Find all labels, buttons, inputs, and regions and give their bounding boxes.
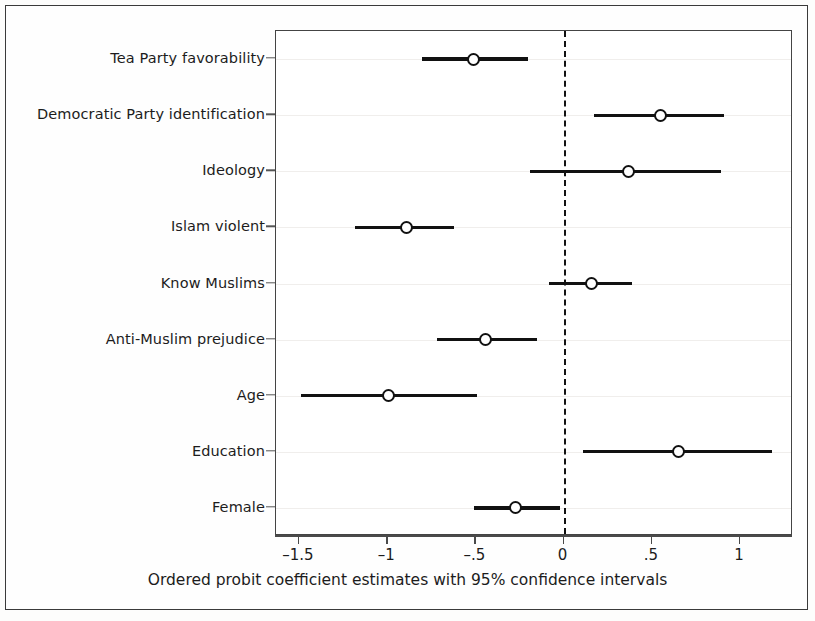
x-axis-tick-label: .5 [644, 546, 658, 564]
x-axis-tick-label: 1 [734, 546, 744, 564]
y-axis-label: Democratic Party identification [37, 106, 275, 122]
x-axis-tick [651, 535, 652, 544]
y-axis-tick [266, 394, 275, 395]
y-axis-labels: Tea Party favorabilityDemocratic Party i… [0, 30, 275, 535]
y-axis-label: Islam violent [171, 218, 275, 234]
y-axis-tick [266, 226, 275, 227]
x-axis-line [275, 535, 792, 537]
x-axis-tick-label: 0 [558, 546, 568, 564]
plot-area: N = 517 Pseudo R2 = 0.19 Log likelihood2… [275, 30, 792, 535]
estimate-marker [467, 53, 480, 66]
y-axis-tick [266, 170, 275, 171]
gridline [276, 284, 791, 285]
estimate-marker [585, 277, 598, 290]
y-axis-tick [266, 450, 275, 451]
y-axis-label: Anti-Muslim prejudice [106, 331, 275, 347]
y-axis-tick [266, 338, 275, 339]
estimate-marker [509, 501, 522, 514]
y-axis-tick [266, 113, 275, 114]
estimate-marker [479, 333, 492, 346]
y-axis-tick [266, 57, 275, 58]
gridline [276, 227, 791, 228]
y-axis-label: Ideology [202, 162, 275, 178]
x-axis-tick [386, 535, 387, 544]
y-axis-label: Know Muslims [161, 275, 275, 291]
x-axis-tick [563, 535, 564, 544]
x-axis-tick-label: –.5 [463, 546, 485, 564]
y-axis-tick [266, 506, 275, 507]
figure-container: Tea Party favorabilityDemocratic Party i… [0, 0, 815, 621]
estimate-marker [382, 389, 395, 402]
x-axis-tick [298, 535, 299, 544]
estimate-marker [672, 445, 685, 458]
y-axis-label: Education [192, 443, 275, 459]
y-axis-tick [266, 282, 275, 283]
estimate-marker [400, 221, 413, 234]
x-axis-tick [739, 535, 740, 544]
estimate-marker [622, 165, 635, 178]
x-axis-tick [474, 535, 475, 544]
y-axis-label: Tea Party favorability [110, 50, 275, 66]
x-axis-tick-label: –1.5 [282, 546, 313, 564]
estimate-marker [654, 109, 667, 122]
gridline [276, 59, 791, 60]
x-axis-tick-label: –1 [378, 546, 395, 564]
x-axis-title: Ordered probit coefficient estimates wit… [0, 571, 815, 589]
